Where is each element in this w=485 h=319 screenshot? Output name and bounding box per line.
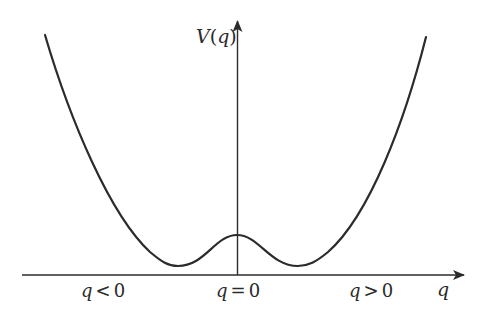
x-axis-label: q bbox=[437, 278, 449, 300]
region-label-negative: q<0 bbox=[81, 280, 125, 301]
region-label-positive: q>0 bbox=[349, 280, 393, 301]
y-axis-label: V(q) bbox=[196, 25, 237, 47]
double-well-potential-diagram: V(q) q q<0 q=0 q>0 bbox=[0, 0, 485, 319]
potential-curve bbox=[45, 35, 426, 266]
region-label-zero: q=0 bbox=[216, 280, 260, 301]
